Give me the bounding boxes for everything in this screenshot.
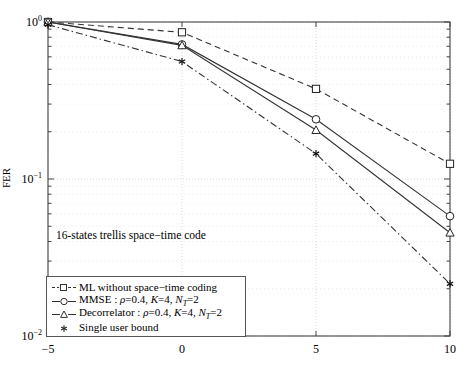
xtick-label: 0 — [179, 342, 185, 357]
legend-label-decorrelator: Decorrelator : ρ=0.4, K=4, NT=2 — [77, 306, 222, 321]
legend-item-ml[interactable]: ML without space−time coding — [51, 280, 241, 294]
figure-container: −5 0 5 10 100 10−1 10−2 FER 16-states tr… — [0, 0, 465, 369]
legend-item-decorrelator[interactable]: Decorrelator : ρ=0.4, K=4, NT=2 — [51, 307, 241, 321]
xtick-label: 5 — [313, 342, 319, 357]
y-axis-label: FER — [0, 168, 12, 188]
xtick-label: 10 — [444, 342, 456, 357]
ytick-label: 10−1 — [10, 171, 42, 187]
ytick-label: 10−2 — [10, 328, 42, 344]
legend-marker-triangle-icon — [51, 307, 77, 320]
data-series-layer — [44, 18, 454, 288]
legend-item-mmse[interactable]: MMSE : ρ=0.4, K=4, NT=2 — [51, 294, 241, 308]
legend-marker-star-icon — [51, 321, 77, 334]
chart-legend: ML without space−time coding MMSE : ρ=0.… — [46, 276, 246, 337]
legend-item-single-user-bound[interactable]: Single user bound — [51, 321, 241, 335]
chart-annotation: 16-states trellis space−time code — [56, 229, 206, 241]
ytick-label: 100 — [10, 14, 42, 30]
legend-label-ml: ML without space−time coding — [77, 281, 217, 293]
legend-label-single-user-bound: Single user bound — [77, 321, 158, 333]
legend-marker-circle-icon — [51, 294, 77, 307]
legend-marker-square-icon — [51, 280, 77, 293]
xtick-label: −5 — [42, 342, 55, 357]
